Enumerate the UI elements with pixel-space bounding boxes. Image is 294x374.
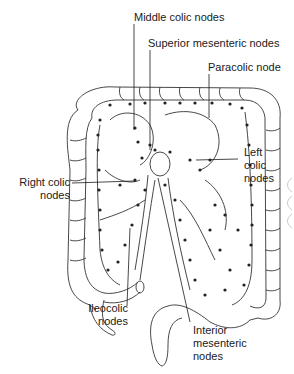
label-line: nodes [18, 189, 70, 202]
label-line: Right colic [18, 176, 70, 189]
label-line: Ileocolic [76, 302, 128, 315]
label-left-colic-nodes: Left colic nodes [244, 146, 274, 185]
lymph-nodes [96, 101, 253, 296]
label-line: Interior [193, 324, 247, 337]
label-inferior-mesenteric-nodes: Interior mesenteric nodes [193, 324, 247, 363]
label-middle-colic-nodes: Middle colic nodes [134, 11, 225, 24]
page-margin-marks [288, 178, 293, 228]
label-line: nodes [76, 315, 128, 328]
label-line: nodes [244, 172, 274, 185]
label-right-colic-nodes: Right colic nodes [18, 176, 70, 202]
label-ileocolic-nodes: Ileocolic nodes [76, 302, 128, 328]
label-line: colic [244, 159, 274, 172]
label-line: nodes [193, 350, 247, 363]
label-superior-mesenteric-nodes: Superior mesenteric nodes [148, 37, 279, 50]
label-line: Left [244, 146, 274, 159]
label-line: mesenteric [193, 337, 247, 350]
label-paracolic-node: Paracolic node [208, 61, 281, 74]
